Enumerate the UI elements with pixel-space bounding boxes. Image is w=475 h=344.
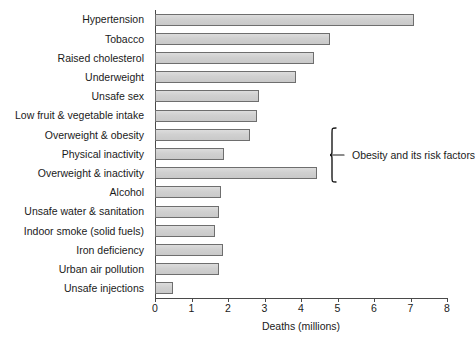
- annotation-obesity-bracket: Obesity and its risk factors: [330, 127, 474, 183]
- bar: [155, 225, 215, 237]
- bar-row: [155, 10, 447, 29]
- bar-row: [155, 240, 447, 259]
- category-label: Unsafe sex: [0, 87, 149, 106]
- annotation-label: Obesity and its risk factors: [352, 149, 475, 161]
- bar: [155, 52, 314, 64]
- category-label: Unsafe injections: [0, 279, 149, 298]
- category-axis-labels: HypertensionTobaccoRaised cholesterolUnd…: [0, 10, 149, 298]
- x-tick-label: 1: [189, 303, 195, 314]
- category-label: Raised cholesterol: [0, 48, 149, 67]
- category-label: Iron deficiency: [0, 240, 149, 259]
- bar-row: [155, 260, 447, 279]
- category-label: Alcohol: [0, 183, 149, 202]
- bar: [155, 71, 296, 83]
- x-tick-label: 2: [225, 303, 231, 314]
- category-label: Hypertension: [0, 10, 149, 29]
- bar: [155, 263, 219, 275]
- bar: [155, 110, 257, 122]
- x-tick-label: 7: [408, 303, 414, 314]
- x-tick-label: 0: [152, 303, 158, 314]
- category-label: Overweight & inactivity: [0, 164, 149, 183]
- category-label: Indoor smoke (solid fuels): [0, 221, 149, 240]
- x-axis-title: Deaths (millions): [155, 320, 447, 332]
- bar-row: [155, 202, 447, 221]
- category-label: Unsafe water & sanitation: [0, 202, 149, 221]
- category-label: Urban air pollution: [0, 260, 149, 279]
- bar-row: [155, 106, 447, 125]
- category-label: Low fruit & vegetable intake: [0, 106, 149, 125]
- x-tick-label: 8: [444, 303, 450, 314]
- category-label: Overweight & obesity: [0, 125, 149, 144]
- bar: [155, 148, 224, 160]
- category-label: Underweight: [0, 68, 149, 87]
- bar-row: [155, 279, 447, 298]
- x-tick-label: 4: [298, 303, 304, 314]
- bar: [155, 14, 414, 26]
- bar-row: [155, 87, 447, 106]
- x-tick-label: 5: [335, 303, 341, 314]
- bar-row: [155, 68, 447, 87]
- bar: [155, 167, 317, 179]
- bar: [155, 186, 221, 198]
- x-tick-label: 6: [371, 303, 377, 314]
- category-label: Tobacco: [0, 29, 149, 48]
- category-label: Physical inactivity: [0, 144, 149, 163]
- x-tick-label: 3: [262, 303, 268, 314]
- bar: [155, 90, 259, 102]
- bar-row: [155, 48, 447, 67]
- bar-row: [155, 29, 447, 48]
- bar-row: [155, 221, 447, 240]
- bar: [155, 282, 173, 294]
- bar: [155, 33, 330, 45]
- bar: [155, 244, 223, 256]
- bar: [155, 206, 219, 218]
- bar-row: [155, 183, 447, 202]
- bar: [155, 129, 250, 141]
